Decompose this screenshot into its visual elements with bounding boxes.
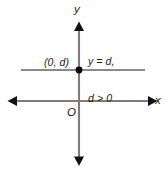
- x-axis-label: x: [155, 94, 161, 108]
- x-axis-left-arrowhead: [8, 96, 18, 106]
- y-axis-bottom-arrowhead: [74, 157, 84, 167]
- point-0-d-marker: [76, 67, 83, 74]
- y-axis-top-arrowhead: [74, 22, 84, 32]
- origin-label: O: [67, 106, 76, 120]
- y-axis-label: y: [74, 3, 80, 17]
- coordinate-plane-figure: y x O (0, d) y = d, d > 0: [0, 0, 166, 177]
- equation-line-1: y = d,: [88, 55, 115, 67]
- coordinate-plane-svg: [0, 0, 166, 177]
- point-coordinate-label: (0, d): [44, 56, 69, 68]
- equation-line-2: d > 0: [88, 92, 115, 104]
- equation-annotation: y = d, d > 0: [88, 30, 115, 129]
